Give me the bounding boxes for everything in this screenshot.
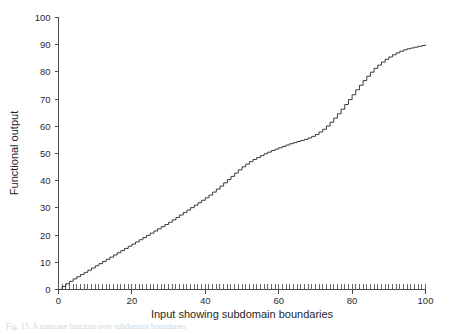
data-series-group <box>59 45 426 290</box>
x-tick-label: 0 <box>56 295 61 306</box>
y-tick-label: 30 <box>40 202 51 213</box>
subdomain-boundary-ticks <box>59 284 426 290</box>
y-tick-label: 20 <box>40 230 51 241</box>
y-tick-label: 10 <box>40 257 51 268</box>
x-axis: 020406080100 <box>56 284 434 307</box>
x-tick-label: 60 <box>273 295 284 306</box>
x-tick-label: 100 <box>418 295 434 306</box>
series-line-functional-output <box>59 45 426 290</box>
chart-canvas: 0102030405060708090100 020406080100 Inpu… <box>0 0 449 334</box>
y-tick-label: 40 <box>40 175 51 186</box>
y-tick-label: 90 <box>40 39 51 50</box>
y-axis-ticks <box>55 18 59 290</box>
y-axis-title: Functional output <box>8 111 20 195</box>
x-axis-major-ticks <box>59 290 426 294</box>
x-axis-tick-labels: 020406080100 <box>56 295 434 306</box>
figure-container: 0102030405060708090100 020406080100 Inpu… <box>0 0 449 334</box>
x-tick-label: 40 <box>200 295 211 306</box>
y-tick-label: 0 <box>45 284 50 295</box>
y-tick-label: 60 <box>40 121 51 132</box>
figure-caption-fragment: Fig. 15. A staircase function over subdo… <box>6 322 306 332</box>
y-tick-label: 100 <box>35 12 51 23</box>
y-tick-label: 80 <box>40 66 51 77</box>
x-axis-title: Input showing subdomain boundaries <box>151 308 334 320</box>
x-tick-label: 80 <box>347 295 358 306</box>
y-tick-label: 50 <box>40 148 51 159</box>
y-axis-tick-labels: 0102030405060708090100 <box>35 12 51 295</box>
y-axis: 0102030405060708090100 <box>35 12 59 295</box>
y-tick-label: 70 <box>40 94 51 105</box>
x-tick-label: 20 <box>127 295 138 306</box>
